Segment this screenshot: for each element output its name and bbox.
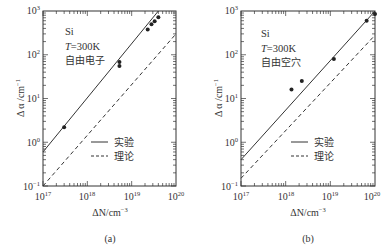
data-point (373, 12, 377, 16)
legend: 实验 理论 (91, 136, 134, 162)
x-tick-label: 1017 (35, 190, 52, 202)
data-point (332, 57, 336, 61)
theory-line (43, 34, 176, 186)
y-axis-title: Δ α /cm−1 (14, 79, 26, 117)
experiment-line (43, 11, 158, 152)
x-tick-label: 1017 (233, 190, 250, 202)
material-label: Si (65, 26, 74, 37)
carrier-label: 自由空穴 (261, 56, 301, 68)
x-axis-tick-labels: 1017 1018 1019 1020 (233, 190, 381, 202)
data-point (117, 64, 121, 68)
data-point (117, 60, 121, 64)
data-point (146, 27, 150, 31)
x-tick-label: 1020 (364, 190, 381, 202)
temperature-label: T=300K (65, 41, 101, 52)
data-point (156, 15, 160, 19)
data-point (153, 19, 157, 23)
x-tick-label: 1018 (278, 190, 295, 202)
y-axis-title: Δ α /cm−1 (212, 79, 224, 117)
y-tick-label: 102 (27, 48, 40, 60)
y-tick-label: 101 (225, 92, 238, 104)
figure: 103 102 101 100 10−1 1017 1018 1019 1020… (0, 0, 386, 252)
y-tick-label: 103 (225, 4, 238, 16)
panel-b-chart: 103 102 101 100 10−1 1017 1018 1019 1020… (212, 4, 380, 245)
legend: 实验 理论 (291, 136, 334, 162)
panel-caption: (a) (104, 233, 115, 245)
carrier-label: 自由电子 (65, 54, 105, 66)
x-axis-tick-labels: 1017 1018 1019 1020 (35, 190, 185, 202)
legend-experiment-label: 实验 (114, 136, 134, 148)
x-tick-label: 1019 (124, 190, 141, 202)
panel-caption: (b) (302, 233, 314, 245)
x-tick-label: 1018 (79, 190, 96, 202)
x-tick-label: 1019 (322, 190, 339, 202)
legend-experiment-label: 实验 (314, 136, 334, 148)
y-tick-label: 102 (225, 48, 238, 60)
material-label: Si (261, 28, 270, 39)
plot-frame (43, 11, 176, 186)
legend-theory-label: 理论 (114, 150, 134, 162)
y-tick-label: 100 (27, 136, 40, 148)
x-axis-title: ΔN/cm−3 (290, 206, 326, 218)
y-tick-label: 101 (27, 92, 40, 104)
series-group (43, 11, 176, 186)
temperature-label: T=300K (261, 43, 297, 54)
x-axis-title: ΔN/cm−3 (92, 206, 128, 218)
data-point (365, 19, 369, 23)
panel-a-chart: 103 102 101 100 10−1 1017 1018 1019 1020… (14, 4, 184, 245)
data-point (62, 125, 66, 129)
y-tick-label: 100 (225, 136, 238, 148)
legend-theory-label: 理论 (314, 150, 334, 162)
data-point (149, 22, 153, 26)
x-tick-label: 1020 (168, 190, 185, 202)
data-point (289, 88, 293, 92)
data-point (300, 79, 304, 83)
axis-ticks (43, 11, 176, 186)
y-tick-label: 103 (27, 4, 40, 16)
